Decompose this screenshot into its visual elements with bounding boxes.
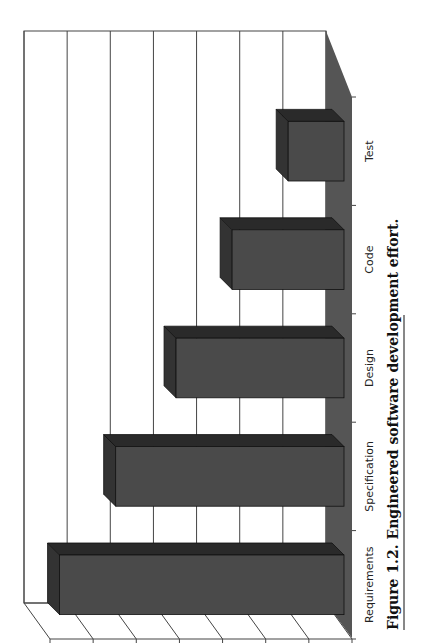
category-label: Requirements <box>363 546 376 623</box>
bar-requirements <box>48 543 344 615</box>
caption-text: Engineered software development effort. <box>385 219 401 540</box>
gridline-depth <box>24 603 50 639</box>
bar-specification <box>104 435 344 507</box>
figure-caption: Figure 1.2. Engineered software developm… <box>385 219 404 630</box>
bar-chart: 0%5%10%15%20%25%30%35%RequirementsSpecif… <box>0 0 423 643</box>
svg-text:Figure 1.2. Engineered softwa: Figure 1.2. Engineered software developm… <box>385 219 401 630</box>
category-label: Design <box>363 349 376 387</box>
bar-test <box>276 109 344 181</box>
category-label: Test <box>363 140 376 163</box>
bar-code <box>220 218 344 290</box>
figure: 0%5%10%15%20%25%30%35%RequirementsSpecif… <box>0 0 423 643</box>
category-label: Code <box>363 245 376 273</box>
category-label: Specification <box>363 441 376 512</box>
bar-design <box>164 326 344 398</box>
caption-label: Figure 1.2. <box>385 540 401 631</box>
